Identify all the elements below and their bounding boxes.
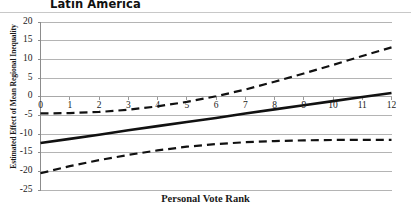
x-tick-label: 7 <box>236 100 254 110</box>
series-line <box>41 140 392 173</box>
x-tick-label: 11 <box>353 100 371 110</box>
chart-figure: Latin America Estimated Effect of Mean R… <box>0 0 411 210</box>
y-tick-label: 15 <box>11 34 33 44</box>
x-axis-title: Personal Vote Rank <box>0 193 411 204</box>
x-tick-label: 6 <box>207 100 225 110</box>
x-tick-label: 0 <box>32 100 50 110</box>
y-tick-label: -20 <box>11 165 33 175</box>
y-tick-label: -25 <box>11 184 33 194</box>
y-tick-label: 5 <box>11 72 33 82</box>
x-tick-label: 10 <box>324 100 342 110</box>
data-series-group <box>41 47 392 173</box>
x-tick-label: 1 <box>61 100 79 110</box>
y-tick-label: 0 <box>11 90 33 100</box>
x-tick-label: 5 <box>178 100 196 110</box>
y-tick-label: 20 <box>11 16 33 26</box>
y-tick-label: -15 <box>11 146 33 156</box>
x-tick-label: 8 <box>266 100 284 110</box>
x-tick-label: 2 <box>90 100 108 110</box>
y-tick-label: 10 <box>11 53 33 63</box>
x-tick-label: 4 <box>149 100 167 110</box>
y-tick-label: -5 <box>11 109 33 119</box>
y-tick-label: -10 <box>11 128 33 138</box>
x-tick-label: 9 <box>295 100 313 110</box>
x-tick-label: 3 <box>119 100 137 110</box>
x-tick-label: 12 <box>383 100 401 110</box>
